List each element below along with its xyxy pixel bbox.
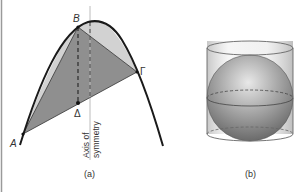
axis-label-line1: Axis of	[81, 132, 91, 158]
figure-canvas: B Γ Δ A Axis of symmetry (a) (b)	[0, 0, 297, 192]
point-delta	[76, 101, 80, 105]
label-a: A	[9, 138, 17, 149]
axis-label-line2: symmetry	[91, 120, 101, 158]
caption-a: (a)	[84, 169, 95, 179]
label-b: B	[73, 13, 80, 24]
point-gamma	[135, 70, 138, 73]
caption-b: (b)	[245, 169, 256, 179]
point-a	[21, 132, 24, 135]
axis-of-symmetry-label: Axis of symmetry	[81, 120, 101, 158]
figure-b-sphere-in-cylinder	[207, 41, 293, 141]
label-delta: Δ	[74, 108, 81, 119]
point-b	[76, 25, 79, 28]
label-gamma: Γ	[140, 66, 146, 77]
sphere	[207, 55, 293, 141]
